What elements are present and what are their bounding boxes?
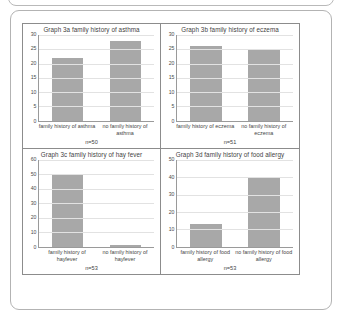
y-axis-3c: 0102030405060 — [25, 160, 38, 248]
gridline — [39, 64, 154, 65]
gridline — [39, 160, 154, 161]
y-tick-label: 30 — [31, 32, 37, 37]
chart-title-3b: Graph 3b family history of eczema — [161, 24, 299, 34]
y-tick-label: 30 — [169, 192, 175, 197]
plot-wrapper-3c: 0102030405060 — [23, 159, 160, 248]
y-tick-label: 50 — [169, 157, 175, 162]
plot-wrapper-3b: 051015202530 — [161, 34, 299, 122]
y-tick-label: 5 — [34, 105, 37, 110]
gridline — [177, 229, 293, 230]
gridline — [177, 49, 293, 50]
category-label: family history of food allergy — [176, 249, 235, 262]
gridline — [39, 232, 154, 233]
gridline — [177, 195, 293, 196]
bar — [110, 245, 141, 247]
category-label: family history of asthma — [38, 123, 96, 136]
y-tick-label: 0 — [34, 245, 37, 250]
y-axis-3d: 01020304050 — [163, 160, 176, 248]
gridline — [39, 218, 154, 219]
category-label: family history of hayfever — [38, 249, 96, 262]
plot-area-3b — [176, 35, 293, 122]
gridline — [39, 35, 154, 36]
bar — [248, 49, 279, 120]
category-labels-3a: family history of asthmano family histor… — [23, 122, 160, 136]
y-tick-label: 25 — [169, 47, 175, 52]
y-tick-label: 50 — [31, 172, 37, 177]
sample-size-caption-3b: n=51 — [161, 136, 299, 148]
category-label: no family history of food allergy — [235, 249, 294, 262]
sample-size-caption-3d: n=53 — [161, 262, 299, 274]
y-tick-label: 20 — [169, 61, 175, 66]
y-axis-3b: 051015202530 — [163, 35, 176, 122]
y-tick-label: 5 — [172, 105, 175, 110]
y-tick-label: 0 — [172, 245, 175, 250]
chart-panel-3b: Graph 3b family history of eczema 051015… — [161, 24, 299, 149]
y-tick-label: 40 — [31, 187, 37, 192]
figure-chart-grid: Graph 3a family history of asthma 051015… — [22, 23, 300, 275]
y-tick-label: 0 — [34, 119, 37, 124]
plot-area-3c — [38, 160, 154, 248]
category-labels-3d: family history of food allergyno family … — [161, 248, 299, 262]
bar — [110, 41, 141, 121]
gridline — [39, 203, 154, 204]
bar-series-3d — [177, 160, 293, 247]
y-tick-label: 20 — [31, 61, 37, 66]
y-tick-label: 20 — [169, 210, 175, 215]
category-label: no family history of eczema — [235, 123, 294, 136]
gridline — [177, 177, 293, 178]
gridline — [177, 78, 293, 79]
bar — [52, 174, 83, 246]
gridline — [177, 92, 293, 93]
y-tick-label: 30 — [31, 201, 37, 206]
bar — [190, 224, 221, 247]
gridline — [39, 174, 154, 175]
y-tick-label: 10 — [31, 230, 37, 235]
gridline — [39, 49, 154, 50]
sample-size-caption-3a: n=50 — [23, 136, 160, 148]
y-tick-label: 10 — [31, 90, 37, 95]
y-tick-label: 20 — [31, 216, 37, 221]
y-tick-label: 60 — [31, 157, 37, 162]
chart-panel-3d: Graph 3d family history of food allergy … — [161, 149, 299, 274]
plot-wrapper-3a: 051015202530 — [23, 34, 160, 122]
gridline — [39, 78, 154, 79]
chart-title-3a: Graph 3a family history of asthma — [23, 24, 160, 34]
chart-title-3c: Graph 3c family history of hay fever — [23, 149, 160, 159]
category-labels-3b: family history of eczemano family histor… — [161, 122, 299, 136]
plot-wrapper-3d: 01020304050 — [161, 159, 299, 248]
y-tick-label: 15 — [31, 76, 37, 81]
gridline — [177, 64, 293, 65]
bar — [190, 46, 221, 120]
y-tick-label: 0 — [172, 119, 175, 124]
gridline — [177, 160, 293, 161]
y-tick-label: 15 — [169, 76, 175, 81]
y-tick-label: 10 — [169, 228, 175, 233]
y-tick-label: 30 — [169, 32, 175, 37]
y-tick-label: 25 — [31, 47, 37, 52]
y-tick-label: 40 — [169, 175, 175, 180]
category-label: family history of eczema — [176, 123, 235, 136]
gridline — [39, 106, 154, 107]
chart-panel-3a: Graph 3a family history of asthma 051015… — [23, 24, 161, 149]
gridline — [177, 212, 293, 213]
category-label: no family history of asthma — [96, 123, 154, 136]
plot-area-3d — [176, 160, 293, 248]
chart-title-3d: Graph 3d family history of food allergy — [161, 149, 299, 159]
category-labels-3c: family history of hayfeverno family hist… — [23, 248, 160, 262]
gridline — [39, 92, 154, 93]
bar — [52, 58, 83, 121]
gridline — [177, 35, 293, 36]
gridline — [177, 106, 293, 107]
plot-area-3a — [38, 35, 154, 122]
gridline — [39, 189, 154, 190]
scanned-page-top-edge — [8, 0, 334, 6]
y-tick-label: 10 — [169, 90, 175, 95]
category-label: no family history of hayfever — [96, 249, 154, 262]
chart-panel-3c: Graph 3c family history of hay fever 010… — [23, 149, 161, 274]
y-axis-3a: 051015202530 — [25, 35, 38, 122]
sample-size-caption-3c: n=53 — [23, 262, 160, 274]
